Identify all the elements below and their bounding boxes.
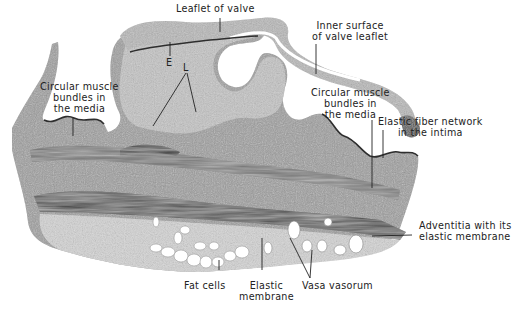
label-inner-surface-line1: Inner surface xyxy=(312,20,388,31)
histology-figure: Leaflet of valve Inner surface of valve … xyxy=(0,0,512,309)
label-elastic-fiber-network: Elastic fiber network in the intima xyxy=(378,116,483,138)
label-elastic-membrane: Elastic membrane xyxy=(239,280,294,302)
label-inner-surface: Inner surface of valve leaflet xyxy=(312,20,388,42)
label-circular-muscle-left-line2: bundles in xyxy=(40,92,119,103)
label-circular-muscle-right-line2: bundles in xyxy=(311,98,390,109)
label-circular-muscle-left: Circular muscle bundles in the media xyxy=(40,81,119,114)
label-circular-muscle-right-line1: Circular muscle xyxy=(311,87,390,98)
label-circular-muscle-left-line3: the media xyxy=(40,103,119,114)
label-adventitia-line2: elastic membrane xyxy=(419,231,511,242)
label-inner-surface-line2: of valve leaflet xyxy=(312,31,388,42)
label-elastic-membrane-line1: Elastic xyxy=(239,280,294,291)
label-e-endothelium: E xyxy=(166,57,172,68)
label-leaflet-of-valve: Leaflet of valve xyxy=(176,3,255,14)
label-circular-muscle-left-line1: Circular muscle xyxy=(40,81,119,92)
tissue-illustration xyxy=(0,0,512,309)
label-adventitia: Adventitia with its elastic membrane xyxy=(419,220,511,242)
label-vasa-vasorum: Vasa vasorum xyxy=(302,280,373,291)
label-fat-cells: Fat cells xyxy=(184,280,226,291)
label-elastic-membrane-line2: membrane xyxy=(239,291,294,302)
label-l-lumen: L xyxy=(183,62,189,73)
label-elastic-fiber-line1: Elastic fiber network xyxy=(378,116,483,127)
label-elastic-fiber-line2: in the intima xyxy=(378,127,483,138)
label-adventitia-line1: Adventitia with its xyxy=(419,220,511,231)
